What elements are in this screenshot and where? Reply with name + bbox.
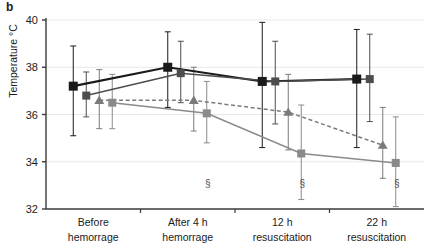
- x-axis: [46, 209, 424, 213]
- x-tick-labels: BeforehemorrageAfter 4 hhemorrage12 hres…: [68, 216, 407, 243]
- data-point-marker: [108, 99, 116, 107]
- y-tick-label: 38: [26, 61, 38, 73]
- y-tick-label: 36: [26, 109, 38, 121]
- data-point-marker: [163, 63, 172, 72]
- data-point-marker: [392, 159, 400, 167]
- data-point-marker: [297, 149, 305, 157]
- y-axis: [42, 18, 46, 209]
- data-point-marker: [189, 96, 199, 104]
- data-point-marker: [271, 77, 279, 85]
- significance-annotations: §§§: [205, 178, 400, 189]
- data-point-marker: [352, 75, 361, 84]
- x-tick-label: After 4 h: [168, 216, 208, 228]
- significance-marker: §: [205, 178, 211, 189]
- x-tick-label: resuscitation: [253, 231, 312, 243]
- x-tick-label: resuscitation: [347, 231, 406, 243]
- figure-panel-b: b Temperature °C 3234363840 Beforehemorr…: [0, 0, 433, 251]
- series-line: [112, 103, 396, 163]
- significance-marker: §: [394, 178, 400, 189]
- data-point-marker: [82, 92, 90, 100]
- y-tick-label: 32: [26, 203, 38, 215]
- data-point-marker: [177, 69, 185, 77]
- series-line: [99, 100, 383, 145]
- data-point-marker: [203, 109, 211, 117]
- x-tick-label: Before: [78, 216, 109, 228]
- data-point-marker: [69, 82, 78, 91]
- y-tick-label: 40: [26, 14, 38, 26]
- x-tick-label: hemorrage: [162, 231, 213, 243]
- series-lines: [73, 67, 396, 163]
- x-tick-label: hemorrage: [68, 231, 119, 243]
- y-tick-label: 34: [26, 156, 38, 168]
- data-point-marker: [258, 77, 267, 86]
- data-point-marker: [366, 75, 374, 83]
- x-tick-label: 22 h: [367, 216, 388, 228]
- temperature-line-chart: 3234363840 BeforehemorrageAfter 4 hhemor…: [0, 0, 433, 251]
- y-tick-labels: 3234363840: [26, 14, 38, 215]
- x-tick-label: 12 h: [272, 216, 293, 228]
- significance-marker: §: [299, 178, 305, 189]
